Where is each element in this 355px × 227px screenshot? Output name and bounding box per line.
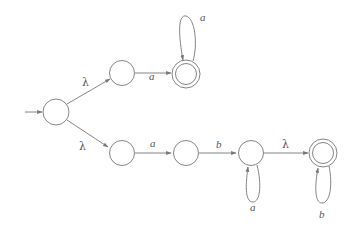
edge-label-q0-q3: λ — [79, 140, 86, 153]
edge-q6-loop — [316, 166, 331, 203]
edge-label-q1-q2: a — [149, 70, 155, 82]
edge-label-q5-q6: λ — [282, 138, 289, 151]
edge-label-q3-q4: a — [150, 137, 156, 149]
edge-label-q5-loop: a — [250, 201, 256, 213]
edge-label-q0-q1: λ — [82, 76, 89, 89]
edge-q2-loop — [180, 16, 196, 61]
edge-label-q4-q5: b — [216, 138, 222, 150]
state-q4 — [174, 141, 199, 166]
edge-label-q2-loop: a — [200, 11, 206, 23]
state-q0 — [43, 99, 69, 125]
edge-q0-q3 — [67, 120, 108, 147]
state-q6-final — [309, 139, 337, 167]
edge-label-q6-loop: b — [319, 208, 325, 220]
state-q1 — [110, 61, 135, 86]
state-q5 — [239, 141, 264, 166]
state-q3 — [110, 141, 135, 166]
automaton-diagram: λ a a λ a b a λ b — [0, 0, 355, 227]
edge-q5-loop — [246, 165, 259, 202]
state-q2-final — [172, 60, 200, 88]
